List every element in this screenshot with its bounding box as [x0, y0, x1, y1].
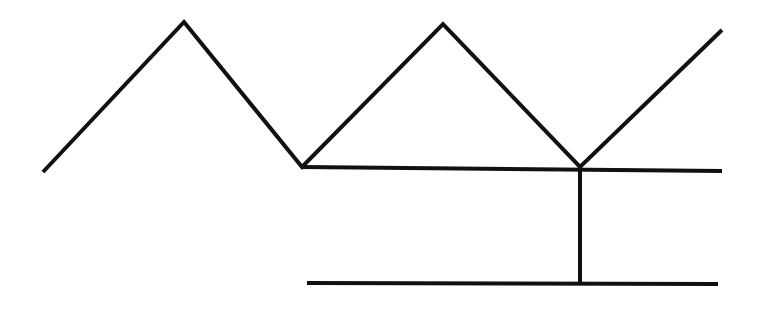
segment-group	[302, 167, 722, 284]
upper-horizontal-line	[302, 167, 722, 171]
diagram-svg	[0, 0, 762, 309]
zigzag-line	[43, 22, 722, 172]
lower-horizontal-line	[307, 283, 718, 284]
line-diagram	[0, 0, 762, 309]
